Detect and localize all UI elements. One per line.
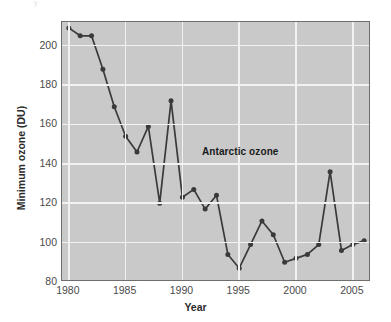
x-tick-label: 2000 [283, 284, 306, 296]
data-point-marker [134, 150, 139, 155]
y-tick-label: 180 [5, 78, 57, 90]
data-point-marker [339, 248, 344, 253]
gridline-vertical [295, 22, 297, 280]
ozone-chart-figure: y 80100120140160180200 19801985199019952… [0, 0, 391, 322]
gridline-horizontal [62, 124, 369, 126]
data-point-marker [100, 67, 105, 72]
data-point-marker [78, 33, 83, 38]
x-tick-label: 1995 [227, 284, 250, 296]
x-axis-title: Year [0, 301, 391, 313]
gridline-vertical [68, 22, 70, 280]
y-tick-label: 120 [5, 196, 57, 208]
data-point-marker [89, 33, 94, 38]
data-point-marker [203, 207, 208, 212]
gridline-vertical [125, 22, 127, 280]
data-point-marker [328, 169, 333, 174]
data-point-marker [169, 98, 174, 103]
gridline-vertical [182, 22, 184, 280]
gridline-horizontal [62, 45, 369, 47]
y-tick-label: 80 [5, 275, 57, 287]
series-annotation-label: Antarctic ozone [202, 146, 279, 157]
data-point-marker [271, 232, 276, 237]
y-axis-title: Minimum ozone (DU) [15, 68, 27, 248]
x-tick-label: 1980 [56, 284, 79, 296]
gridline-horizontal [62, 163, 369, 165]
y-tick-label: 100 [5, 236, 57, 248]
y-tick-label: 160 [5, 117, 57, 129]
data-point-marker [214, 193, 219, 198]
data-point-marker [112, 104, 117, 109]
data-point-marker [191, 187, 196, 192]
y-axis-ticks: 80100120140160180200 [0, 0, 57, 322]
gridline-vertical [352, 22, 354, 280]
data-point-marker [305, 252, 310, 257]
data-point-marker [282, 260, 287, 265]
x-tick-label: 2005 [340, 284, 363, 296]
x-tick-label: 1990 [170, 284, 193, 296]
data-point-marker [225, 252, 230, 257]
gridline-horizontal [62, 242, 369, 244]
x-tick-label: 1985 [113, 284, 136, 296]
y-tick-label: 140 [5, 157, 57, 169]
data-point-marker [259, 218, 264, 223]
gridline-horizontal [62, 84, 369, 86]
y-tick-label: 200 [5, 39, 57, 51]
gridline-horizontal [62, 202, 369, 204]
